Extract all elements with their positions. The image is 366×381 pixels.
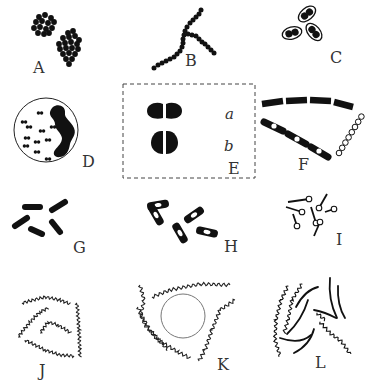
spore [349, 129, 355, 135]
capsulated-diplococcus [281, 25, 303, 42]
spore [355, 119, 361, 125]
coccus [185, 25, 190, 30]
spore [346, 135, 352, 141]
spore-rod [171, 221, 189, 244]
coccus [212, 51, 217, 56]
rod [31, 229, 42, 234]
spirochete [320, 322, 351, 353]
curved-filament [338, 286, 345, 318]
coccus [37, 24, 43, 30]
panel-h-label: H [224, 237, 238, 256]
drumstick-rod [288, 196, 312, 202]
diplococcus-a [147, 103, 182, 119]
coccus [63, 45, 69, 51]
coccus [60, 35, 66, 41]
panel-j [18, 296, 82, 357]
coccus [35, 30, 41, 36]
spirochete [18, 308, 49, 337]
panel-g-label: G [73, 238, 86, 257]
panel-g [15, 202, 65, 234]
coccus [75, 46, 81, 52]
bacteria-morphology-figure: A B C D [0, 0, 366, 381]
spore-rod [183, 205, 206, 224]
panel-c-label: C [330, 48, 342, 67]
coccus [69, 56, 75, 62]
coccus [41, 31, 47, 37]
drumstick-rod [293, 214, 300, 229]
panel-e-sublabel-b: b [224, 137, 234, 155]
panel-i-label: I [336, 230, 342, 249]
spore [343, 140, 349, 146]
spirochete [40, 322, 72, 333]
spirochete [139, 285, 167, 351]
coccus [56, 41, 62, 47]
curved-filament [330, 278, 337, 318]
panel-l [274, 278, 351, 356]
rod-chain-top [262, 100, 353, 107]
coccus [199, 8, 204, 13]
panel-b-label: B [185, 51, 197, 70]
panel-b [152, 8, 217, 71]
spore [336, 150, 342, 156]
curved-filament [280, 335, 311, 341]
coccus [70, 28, 76, 34]
coccus [74, 41, 80, 47]
capsulated-diplococcus [295, 3, 318, 25]
coccus [63, 56, 69, 62]
spirochete [137, 307, 191, 358]
panel-e-label: E [228, 159, 240, 178]
coccus [72, 51, 78, 57]
coccus [49, 25, 55, 31]
spirochete [25, 340, 74, 357]
spirochete [317, 313, 325, 321]
coccus [62, 40, 68, 46]
coccus [33, 19, 39, 25]
spirochete [76, 303, 82, 357]
drumstick-rod [325, 206, 337, 212]
panel-k [137, 283, 235, 362]
panel-f [262, 100, 364, 157]
coccus [152, 66, 157, 71]
panel-j-label: J [37, 361, 45, 380]
coccus [46, 30, 52, 36]
spore [352, 124, 358, 130]
rod [52, 222, 60, 232]
panel-i [286, 194, 337, 236]
coccus [51, 19, 57, 25]
drumstick-rod [316, 194, 327, 211]
spore-rod-chain [264, 122, 328, 157]
coccus [42, 12, 48, 18]
rod [52, 202, 65, 210]
coccus [66, 50, 72, 56]
coccus [57, 46, 63, 52]
spirochete [22, 296, 71, 304]
coccus [68, 39, 74, 45]
spore [339, 145, 345, 151]
coccus [66, 61, 72, 67]
panel-c [281, 3, 325, 44]
rod [15, 218, 27, 226]
panel-e-sublabel-a: a [225, 105, 234, 123]
drumstick-rod [286, 207, 305, 215]
capsulated-diplococcus [303, 20, 325, 43]
spore-rod [195, 226, 218, 238]
host-cell [161, 294, 205, 338]
spirochete [283, 284, 302, 333]
coccus [66, 34, 72, 40]
panel-h [146, 199, 218, 244]
panel-k-label: K [217, 355, 230, 374]
panel-d-label: D [82, 152, 95, 171]
panel-f-label: F [298, 155, 309, 174]
panel-d [14, 98, 78, 162]
coccus [60, 51, 66, 57]
spirochete [274, 286, 288, 356]
coccus [39, 18, 45, 24]
spore-chain [336, 114, 364, 156]
panel-a-label: A [32, 58, 45, 77]
spore [359, 114, 365, 120]
coccus [31, 25, 37, 31]
diplococcus-b [151, 131, 178, 154]
coccus [45, 20, 51, 26]
panel-l-label: L [315, 353, 326, 372]
coccus [69, 45, 75, 51]
